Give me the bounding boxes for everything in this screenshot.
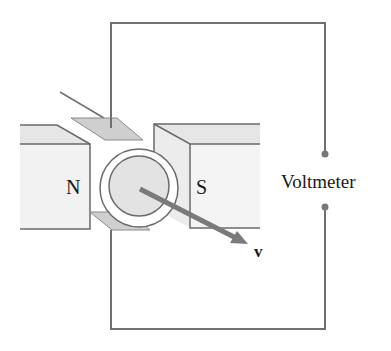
voltmeter-terminal-bottom [322, 204, 329, 211]
voltmeter-terminal-top [322, 151, 329, 158]
faraday-disk-diagram: N S Voltmeter v [0, 0, 391, 351]
top-contact-plate [71, 118, 143, 140]
rotating-disk [100, 149, 178, 227]
north-pole-label: N [66, 176, 80, 198]
axle-line [60, 92, 104, 118]
south-pole-label: S [196, 176, 207, 198]
voltmeter-label: Voltmeter [281, 171, 356, 192]
velocity-label: v [254, 242, 263, 261]
